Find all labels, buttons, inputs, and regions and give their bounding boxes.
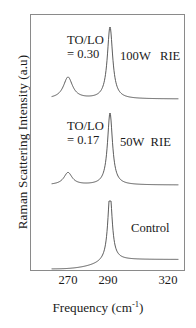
trace-label-50w-rie: 50W RIE (120, 135, 171, 149)
annotation-ratio-50w: TO/LO = 0.17 (67, 119, 104, 147)
y-axis-label: Raman Scattering Intensity (a.u) (15, 17, 31, 267)
x-axis-label-paren: ) (139, 300, 143, 315)
ratio-value-top: = 0.30 (67, 47, 104, 61)
annotation-ratio-100w: TO/LO = 0.30 (67, 33, 104, 61)
ratio-value-mid: = 0.17 (67, 133, 104, 147)
trace-label-100w-rie: 100W RIE (120, 49, 180, 63)
x-tick-290: 290 (99, 273, 118, 288)
x-tick-270: 270 (59, 273, 78, 288)
trace-label-control: Control (131, 221, 169, 235)
raman-spectra-figure: Raman Scattering Intensity (a.u) TO/LO =… (0, 0, 196, 328)
x-axis-tick-labels: 270290320 (0, 273, 196, 291)
x-tick-320: 320 (159, 273, 178, 288)
x-axis-label-main: Frequency (cm (52, 300, 131, 315)
plot-area: TO/LO = 0.30 TO/LO = 0.17 100W RIE 50W R… (30, 14, 185, 271)
ratio-label-top: TO/LO (67, 33, 104, 47)
ratio-label-mid: TO/LO (67, 119, 104, 133)
x-axis-label: Frequency (cm-1) (0, 300, 196, 316)
